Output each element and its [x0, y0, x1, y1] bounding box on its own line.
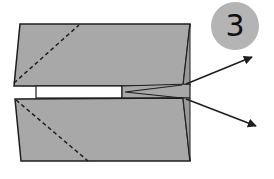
- step-number-badge: 3: [211, 2, 259, 50]
- arrow-down-right: [186, 99, 256, 126]
- arrow-up-right: [186, 57, 252, 84]
- bottom-flap: [15, 98, 190, 161]
- center-slit: [36, 86, 122, 98]
- top-flap: [14, 24, 190, 86]
